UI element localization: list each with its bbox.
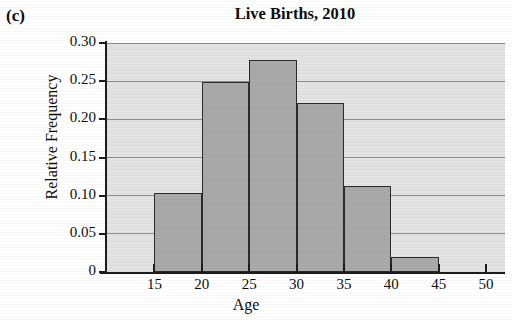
histogram-bar [202, 82, 249, 272]
x-axis-tick-label: 20 [194, 276, 209, 293]
histogram-figure: (c) Live Births, 2010 Relative Frequency… [0, 0, 512, 320]
y-axis-tick-label: 0.30 [46, 33, 96, 50]
x-axis-tick [248, 264, 250, 273]
x-axis-tick-label: 25 [242, 276, 257, 293]
y-axis-tick [99, 157, 107, 159]
histogram-bar [344, 186, 391, 272]
y-axis-tick [99, 118, 107, 120]
histogram-bar [297, 103, 344, 272]
panel-label: (c) [6, 6, 25, 26]
x-axis-tick [390, 264, 392, 273]
x-axis-tick-label: 40 [384, 276, 399, 293]
histogram-bar [154, 193, 201, 272]
y-axis-tick [99, 271, 107, 273]
x-axis-tick-label: 35 [336, 276, 351, 293]
y-axis-tick [99, 195, 107, 197]
plot-area [107, 43, 505, 272]
x-axis-tick-label: 50 [479, 276, 494, 293]
x-axis-line [100, 272, 505, 274]
x-axis-tick [296, 264, 298, 273]
chart-title: Live Births, 2010 [170, 4, 420, 24]
y-axis-tick-label: 0.20 [46, 109, 96, 126]
y-axis-tick-label: 0.10 [46, 186, 96, 203]
histogram-bar [249, 60, 296, 272]
x-axis-label: Age [233, 296, 260, 314]
x-axis-tick [343, 264, 345, 273]
y-axis-label: Relative Frequency [43, 37, 61, 237]
y-axis-tick [99, 80, 107, 82]
x-axis-tick [438, 264, 440, 273]
y-axis-tick [99, 233, 107, 235]
y-axis-tick-label: 0.15 [46, 148, 96, 165]
histogram-bar [391, 257, 438, 272]
x-axis-tick [201, 264, 203, 273]
x-axis-tick [485, 264, 487, 273]
y-axis-tick [99, 42, 107, 44]
x-axis-tick-label: 30 [289, 276, 304, 293]
x-axis-tick-label: 45 [431, 276, 446, 293]
gridline [107, 81, 505, 82]
y-axis-tick-label: 0.25 [46, 71, 96, 88]
x-axis-tick-label: 15 [147, 276, 162, 293]
y-axis-tick-label: 0.05 [46, 224, 96, 241]
gridline [107, 43, 505, 44]
x-axis-tick [153, 264, 155, 273]
y-axis-tick-label: 0 [46, 262, 96, 279]
